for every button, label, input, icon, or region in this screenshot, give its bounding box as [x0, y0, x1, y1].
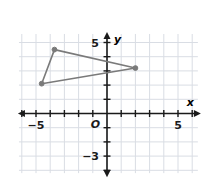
chart-canvas: −555−3 x y O — [0, 0, 210, 194]
y-tick-label: −3 — [82, 150, 99, 163]
y-axis-label: y — [114, 33, 122, 46]
x-tick-label: 5 — [174, 119, 182, 132]
x-axis-label: x — [186, 96, 195, 109]
vertex-points — [39, 47, 138, 86]
origin-label: O — [91, 118, 100, 131]
y-tick-label: 5 — [91, 37, 99, 50]
coordinate-plane-chart: −555−3 x y O — [0, 0, 210, 194]
grid-lines — [19, 34, 198, 173]
axes — [18, 32, 201, 177]
x-tick-label: −5 — [28, 119, 45, 132]
